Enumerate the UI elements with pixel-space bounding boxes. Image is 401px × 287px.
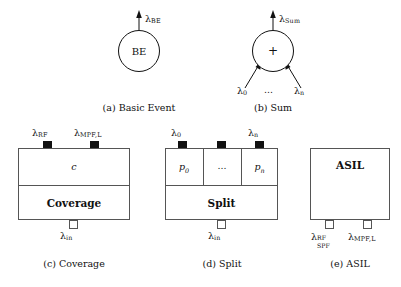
lambda-subscript: n xyxy=(300,89,304,97)
lambda-subscript: SPF xyxy=(317,242,330,249)
lambda-subscript: in xyxy=(214,234,221,242)
split-top-port-n-label: λn xyxy=(248,127,258,139)
lambda-subscript: MPF,L xyxy=(80,131,102,139)
asil-bottom-port-mpfl xyxy=(363,220,372,229)
sum-input-ellipsis: … xyxy=(264,85,273,95)
asil-bottom-port-spf-label: λRFSPF xyxy=(311,231,331,242)
sum-node: + xyxy=(252,30,294,72)
asil-bottom-port-mpfl-label: λMPF,L xyxy=(348,231,376,243)
caption-split: (d) Split xyxy=(167,258,277,269)
coverage-top-port-rf-label: λRF xyxy=(32,127,48,139)
coverage-name-label: Coverage xyxy=(18,197,130,209)
caption-sum: (b) Sum xyxy=(218,102,328,113)
caption-coverage: (c) Coverage xyxy=(14,258,134,269)
split-box xyxy=(165,148,278,220)
lambda-subscript: 0 xyxy=(243,89,247,97)
split-box-divider xyxy=(165,185,278,186)
lambda-subscript: Sum xyxy=(285,17,300,25)
sum-node-label: + xyxy=(268,44,278,58)
sum-output-label: λSum xyxy=(279,13,300,25)
sum-input-label-0: λ0 xyxy=(237,85,247,97)
coverage-box xyxy=(18,148,130,220)
split-cell-p0-text: p0 xyxy=(179,161,189,172)
ellipsis-glyph: … xyxy=(264,85,273,95)
lambda-subscript: MPF,L xyxy=(354,235,376,243)
split-bottom-port-in-label: λin xyxy=(208,230,221,242)
caption-asil: (e) ASIL xyxy=(300,258,400,269)
lambda-subscript: n xyxy=(254,131,258,139)
split-name-label: Split xyxy=(165,197,278,209)
lambda-subscript: 0 xyxy=(177,131,181,139)
asil-name-label: ASIL xyxy=(310,159,390,171)
lambda-subscript: RF xyxy=(38,131,48,139)
coverage-top-port-mpfl-label: λMPF,L xyxy=(74,127,102,139)
asil-bottom-port-spf xyxy=(325,220,334,229)
sum-input-label-n: λn xyxy=(294,85,304,97)
split-cell-pn: pn xyxy=(241,161,278,175)
lambda-superscript: RF xyxy=(317,234,326,241)
coverage-bottom-port-in-label: λin xyxy=(60,230,73,242)
split-cell-ellipsis: … xyxy=(203,161,241,171)
split-bottom-port-in xyxy=(217,220,226,229)
coverage-bottom-port-in xyxy=(69,220,78,229)
split-cell-p0: p0 xyxy=(165,161,203,175)
split-cell-pn-text: pn xyxy=(254,161,264,172)
lambda-subscript: in xyxy=(66,234,73,242)
coverage-box-divider xyxy=(18,185,130,186)
sum-arrows xyxy=(0,0,401,287)
coverage-cell-c: c xyxy=(18,161,130,172)
split-top-port-0-label: λ0 xyxy=(171,127,181,139)
